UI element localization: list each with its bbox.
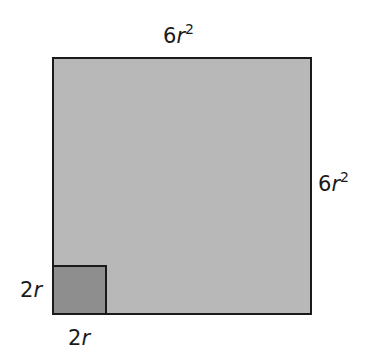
large-square-top-label: 6r2 xyxy=(163,26,194,47)
large-square-right-label: 6r2 xyxy=(318,174,349,195)
small-square-bottom-label: 2r xyxy=(68,328,90,349)
small-square-left-label: 2r xyxy=(20,280,42,301)
small-square xyxy=(52,265,107,315)
